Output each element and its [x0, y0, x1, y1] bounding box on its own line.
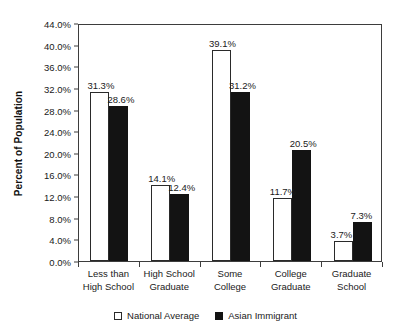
x-axis-tick-mark: [321, 262, 322, 267]
bar-asian-immigrant: [170, 194, 189, 261]
y-axis-tick-label: 4.0%: [49, 235, 71, 246]
value-label-asian-immigrant: 28.6%: [107, 94, 134, 105]
x-axis-tick-mark: [78, 262, 79, 267]
category-label-line1: High School: [144, 268, 195, 279]
x-axis-tick-mark: [382, 262, 383, 267]
value-label-national-average: 31.3%: [87, 80, 114, 91]
value-label-asian-immigrant: 31.2%: [229, 80, 256, 91]
legend-label: National Average: [127, 310, 199, 321]
y-axis-tick-label: 28.0%: [44, 105, 71, 116]
y-axis-tick-label: 36.0%: [44, 62, 71, 73]
y-axis-tick-label: 32.0%: [44, 83, 71, 94]
category-label: GraduateSchool: [315, 268, 388, 293]
x-axis-tick-mark: [200, 262, 201, 267]
y-axis-tick-label: 40.0%: [44, 40, 71, 51]
category-label-line1: Graduate: [332, 268, 372, 279]
y-axis-tick-label: 44.0%: [44, 19, 71, 30]
bar-national-average: [151, 185, 170, 261]
legend-swatch-national-average: [114, 312, 122, 320]
plot-area: [78, 24, 382, 262]
y-axis-tick-label: 20.0%: [44, 148, 71, 159]
bar-asian-immigrant: [109, 106, 128, 261]
bar-national-average: [273, 198, 292, 261]
bar-asian-immigrant: [292, 150, 311, 261]
bar-chart: Percent of Population 44.0%40.0%36.0%32.…: [0, 0, 411, 334]
x-axis-tick-mark: [139, 262, 140, 267]
value-label-asian-immigrant: 12.4%: [168, 182, 195, 193]
y-axis-title: Percent of Population: [10, 24, 28, 262]
category-label-line1: College: [275, 268, 307, 279]
legend-swatch-asian-immigrant: [215, 312, 223, 320]
bar-asian-immigrant: [231, 92, 250, 261]
value-label-national-average: 3.7%: [331, 229, 353, 240]
bar-asian-immigrant: [353, 222, 372, 261]
y-axis-tick-label: 24.0%: [44, 127, 71, 138]
y-axis-tick-label: 0.0%: [49, 257, 71, 268]
legend-item[interactable]: National Average: [114, 310, 199, 321]
legend-label: Asian Immigrant: [228, 310, 297, 321]
y-axis-title-text: Percent of Population: [14, 90, 25, 195]
category-label-line2: School: [315, 281, 388, 294]
y-axis-tick-label: 12.0%: [44, 192, 71, 203]
category-label-line1: Less than: [88, 268, 129, 279]
value-label-asian-immigrant: 7.3%: [351, 210, 373, 221]
chart-legend: National AverageAsian Immigrant: [0, 310, 411, 321]
x-axis-tick-mark: [260, 262, 261, 267]
y-axis-tick-label: 8.0%: [49, 213, 71, 224]
y-axis-tick-label: 16.0%: [44, 170, 71, 181]
bar-national-average: [90, 92, 109, 261]
value-label-asian-immigrant: 20.5%: [290, 138, 317, 149]
value-label-national-average: 11.7%: [270, 186, 296, 197]
bar-national-average: [334, 241, 353, 261]
legend-item[interactable]: Asian Immigrant: [215, 310, 297, 321]
y-axis-ticks: 44.0%40.0%36.0%32.0%28.0%24.0%20.0%16.0%…: [30, 24, 78, 262]
value-label-national-average: 39.1%: [209, 38, 236, 49]
category-label-line1: Some: [218, 268, 243, 279]
